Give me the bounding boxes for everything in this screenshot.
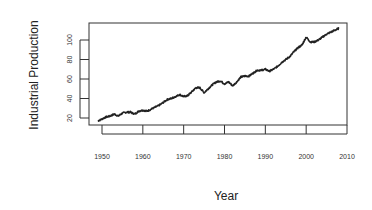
x-tick-label: 1950 xyxy=(94,153,110,160)
x-tick-label: 1960 xyxy=(135,153,151,160)
line-chart: 20406080100 1950196019701980199020002010… xyxy=(0,0,372,210)
x-tick-label: 1990 xyxy=(258,153,274,160)
y-tick-label: 80 xyxy=(66,56,73,64)
y-tick-label: 20 xyxy=(66,114,73,122)
y-axis-title: Industrial Production xyxy=(27,20,41,129)
y-tick-label: 40 xyxy=(66,95,73,103)
plot-frame xyxy=(89,23,347,125)
x-tick-label: 2000 xyxy=(298,153,314,160)
x-axis-title: Year xyxy=(214,189,238,203)
data-line xyxy=(98,28,339,121)
x-axis: 1950196019701980199020002010 xyxy=(94,125,355,160)
x-tick-label: 2010 xyxy=(339,153,355,160)
y-tick-label: 100 xyxy=(66,34,73,46)
x-tick-label: 1970 xyxy=(176,153,192,160)
x-tick-label: 1980 xyxy=(217,153,233,160)
y-tick-label: 60 xyxy=(66,75,73,83)
y-axis: 20406080100 xyxy=(66,34,90,122)
